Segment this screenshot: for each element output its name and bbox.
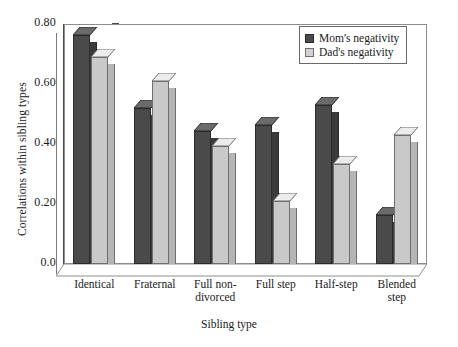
bar-face [394,135,411,264]
bar-top [73,27,98,36]
y-tick-label: 0.0 [6,255,56,270]
bar-group [125,24,186,264]
bar-side [410,142,418,264]
x-axis-label-line: step [355,291,440,304]
bar-face [212,146,229,265]
bar-side [168,88,176,264]
bar [212,146,229,265]
bar-group [246,24,307,264]
bar [255,125,272,265]
legend-label: Mom's negativity [319,32,399,44]
bar-face [152,81,169,264]
bar [194,131,211,265]
y-tick-label: 0.40 [6,135,56,150]
bar-top [315,97,340,106]
bar [134,108,151,264]
legend-label: Dad's negativity [319,46,394,58]
x-axis-title: Sibling type [0,318,458,330]
bar [91,57,108,264]
bar-group [64,24,125,264]
bar-face [91,57,108,264]
bar-top [212,138,237,147]
legend-swatch-light [305,48,314,57]
bar-face [376,215,393,265]
legend-item: Dad's negativity [305,45,399,59]
bar [73,35,90,265]
y-axis: 0.00.200.400.600.80 [0,0,56,347]
bar-face [273,201,290,264]
bar [152,81,169,264]
bar-face [134,108,151,264]
y-axis-title: Correlations within sibling types [16,82,28,236]
bar [315,105,332,264]
bar [273,201,290,264]
bar [376,215,393,265]
bar-face [73,35,90,265]
plot-floor [56,264,427,276]
bar [333,164,350,265]
bar-side [228,153,236,265]
bar-side [289,208,297,264]
legend-item: Mom's negativity [305,31,399,45]
bar-top [152,73,177,82]
bar-face [315,105,332,264]
bar-top [394,127,419,136]
bar-face [255,125,272,265]
bar-face [194,131,211,265]
legend-swatch-dark [305,34,314,43]
x-axis-label-line: Blended [355,278,440,291]
legend: Mom's negativityDad's negativity [299,26,407,64]
bar-top [91,49,116,58]
y-tick-label: 0.20 [6,195,56,210]
bar-top [255,117,280,126]
bar-top [194,123,219,132]
bar-side [349,171,357,265]
bar-group [185,24,246,264]
y-axis-depth-line [56,33,57,274]
y-tick-label: 0.80 [6,15,56,30]
x-axis-label: Blendedstep [355,278,440,304]
y-tick-label: 0.60 [6,75,56,90]
bar-chart: 0.00.200.400.600.80 Correlations within … [0,0,458,347]
bar-top [273,193,298,202]
bar-top [333,156,358,165]
bar-face [333,164,350,265]
bar-side [107,64,115,264]
x-axis-label-line: divorced [173,291,258,304]
bar [394,135,411,264]
